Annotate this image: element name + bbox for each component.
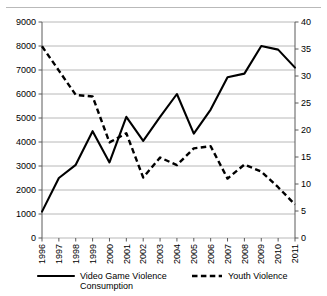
left-axis-tick-label: 7000 (16, 65, 36, 75)
x-axis-tick-label: 2003 (155, 244, 165, 264)
left-axis-tick-labels: 0100020003000400050006000700080009000 (16, 17, 36, 243)
x-axis-tick-label: 2000 (105, 244, 115, 264)
x-axis-tick-label: 2007 (223, 244, 233, 264)
chart-figure: 0100020003000400050006000700080009000 05… (0, 0, 327, 296)
x-axis-tick-label: 2002 (138, 244, 148, 264)
x-axis-tick-label: 1997 (54, 244, 64, 264)
axes-group (39, 22, 299, 242)
x-axis-tick-label: 2001 (122, 244, 132, 264)
right-axis-tick-label: 25 (301, 98, 311, 108)
x-axis-tick-label: 2010 (273, 244, 283, 264)
series-line-video-game-violence-consumption (42, 46, 295, 212)
right-axis-tick-label: 30 (301, 71, 311, 81)
legend-label-youth-violence: Youth Violence (228, 271, 288, 281)
x-axis-tick-label: 1996 (37, 244, 47, 264)
right-axis-tick-label: 15 (301, 152, 311, 162)
right-axis-tick-label: 35 (301, 44, 311, 54)
left-axis-tick-label: 4000 (16, 137, 36, 147)
left-axis-tick-label: 3000 (16, 161, 36, 171)
data-series-group (42, 46, 295, 212)
right-axis-tick-label: 40 (301, 17, 311, 27)
x-axis-tick-label: 2009 (256, 244, 266, 264)
legend-label-video-game-violence-consumption: Video Game Violence (80, 271, 167, 281)
x-axis-tick-label: 1999 (88, 244, 98, 264)
x-axis-tick-label: 2004 (172, 244, 182, 264)
right-axis-tick-label: 5 (301, 206, 306, 216)
x-axis-tick-label: 1998 (71, 244, 81, 264)
left-axis-tick-label: 6000 (16, 89, 36, 99)
right-axis-tick-label: 20 (301, 125, 311, 135)
chart-legend: Video Game ViolenceConsumptionYouth Viol… (38, 271, 288, 291)
x-axis-tick-label: 2005 (189, 244, 199, 264)
left-axis-tick-label: 9000 (16, 17, 36, 27)
right-axis-tick-labels: 0510152025303540 (301, 17, 311, 243)
x-axis-tick-label: 2008 (240, 244, 250, 264)
left-axis-tick-label: 2000 (16, 185, 36, 195)
x-axis-tick-labels: 1996199719981999200020012002200320042005… (37, 244, 300, 264)
x-axis-tick-label: 2011 (290, 244, 300, 263)
x-axis-tick-label: 2006 (206, 244, 216, 264)
right-axis-tick-label: 10 (301, 179, 311, 189)
chart-canvas: 0100020003000400050006000700080009000 05… (0, 0, 327, 296)
left-axis-tick-label: 1000 (16, 209, 36, 219)
legend-label-video-game-violence-consumption-line2: Consumption (80, 281, 133, 291)
left-axis-tick-label: 5000 (16, 113, 36, 123)
left-axis-tick-label: 0 (31, 233, 36, 243)
left-axis-tick-label: 8000 (16, 41, 36, 51)
right-axis-tick-label: 0 (301, 233, 306, 243)
